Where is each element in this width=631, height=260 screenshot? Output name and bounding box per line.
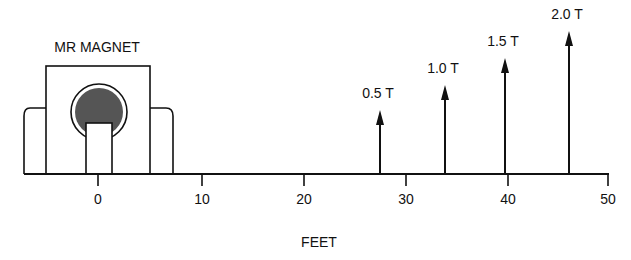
- axis-ticks: [98, 174, 608, 186]
- field-strength-label: 0.5 T: [362, 86, 394, 100]
- tick-label: 10: [194, 192, 210, 206]
- axis-label: FEET: [301, 235, 337, 249]
- left-wing: [24, 108, 46, 174]
- arrow-up-icon: [376, 110, 384, 125]
- arrow-up-icon: [565, 31, 573, 46]
- tick-label: 20: [296, 192, 312, 206]
- field-arrows: [376, 31, 573, 174]
- magnet-label: MR MAGNET: [54, 40, 140, 54]
- right-wing: [150, 108, 173, 174]
- patient-table: [86, 123, 112, 174]
- tick-label: 50: [600, 192, 616, 206]
- field-strength-label: 1.5 T: [487, 34, 519, 48]
- mr-magnet: [24, 66, 173, 174]
- arrow-up-icon: [501, 58, 509, 73]
- tick-label: 30: [398, 192, 414, 206]
- field-strength-label: 1.0 T: [427, 61, 459, 75]
- arrow-up-icon: [441, 85, 449, 100]
- tick-label: 0: [94, 192, 102, 206]
- field-strength-label: 2.0 T: [551, 7, 583, 21]
- tick-label: 40: [500, 192, 516, 206]
